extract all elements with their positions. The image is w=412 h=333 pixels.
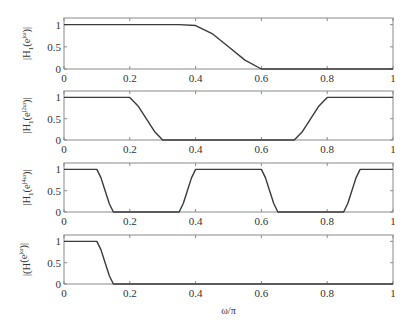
x-tick-label: 0.6 [255,72,269,84]
y-tick-label: 0 [56,63,62,75]
x-tick-label: 0.2 [123,215,137,227]
x-tick-label: 0.6 [255,287,269,299]
x-tick-label: 1 [390,287,396,299]
subplot-1: 00.20.40.60.8100.51|H1(ejω)| [20,18,396,84]
x-tick-label: 0 [61,215,67,227]
y-tick-label: 0.5 [47,257,61,269]
axes-frame [64,91,393,140]
subplot-4: 00.20.40.60.8100.51|(H(ejω)|ω/π [17,235,396,316]
y-tick-label: 0 [56,134,62,146]
y-tick-label: 0.5 [47,113,61,125]
response-curve [64,169,393,212]
axes-frame [64,18,393,69]
x-tick-label: 0.4 [189,72,203,84]
y-axis-label: |H1(ejω)| [20,27,35,60]
y-tick-label: 0 [56,206,62,218]
y-tick-label: 0.5 [47,185,61,197]
axes-frame [64,235,393,284]
response-curve [64,25,393,69]
x-axis-label: ω/π [221,305,235,316]
x-tick-label: 0.2 [123,143,137,155]
filter-response-figure: 00.20.40.60.8100.51|H1(ejω)|00.20.40.60.… [0,0,412,333]
x-tick-label: 0.2 [123,287,137,299]
y-axis-label: |H1(ej4ω)| [20,169,35,205]
response-curve [64,241,393,284]
subplot-2: 00.20.40.60.8100.51|H1(ej2ω)| [20,91,396,155]
x-tick-label: 0.8 [320,143,334,155]
x-tick-label: 1 [390,72,396,84]
response-curve [64,97,393,140]
x-tick-label: 0 [61,143,67,155]
x-tick-label: 0.4 [189,287,203,299]
figure-svg: 00.20.40.60.8100.51|H1(ejω)|00.20.40.60.… [0,0,412,333]
x-tick-label: 0.6 [255,215,269,227]
x-tick-label: 0.2 [123,72,137,84]
y-tick-label: 1 [56,91,62,103]
x-tick-label: 0 [61,287,67,299]
x-tick-label: 1 [390,215,396,227]
x-tick-label: 0.4 [189,143,203,155]
y-tick-label: 1 [56,19,62,31]
y-axis-label: |(H(ejω)| [17,243,33,276]
x-tick-label: 0.8 [320,72,334,84]
y-tick-label: 0 [56,278,62,290]
y-tick-label: 1 [56,163,62,175]
y-tick-label: 0.5 [47,41,61,53]
axes-frame [64,163,393,212]
x-tick-label: 1 [390,143,396,155]
subplot-3: 00.20.40.60.8100.51|H1(ej4ω)| [20,163,396,227]
x-tick-label: 0.6 [255,143,269,155]
x-tick-label: 0.4 [189,215,203,227]
x-tick-label: 0.8 [320,215,334,227]
x-tick-label: 0 [61,72,67,84]
y-tick-label: 1 [56,235,62,247]
x-tick-label: 0.8 [320,287,334,299]
y-axis-label: |H1(ej2ω)| [20,97,35,133]
